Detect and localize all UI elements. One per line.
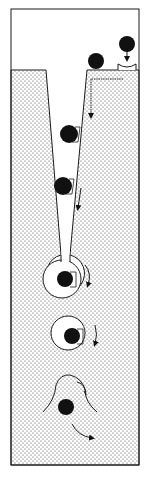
particle-cavity-2: [64, 328, 80, 344]
particle-released: [58, 399, 74, 415]
particle-cavity-1: [57, 271, 73, 287]
diagram-canvas: [0, 0, 149, 483]
particle-surface-1: [88, 53, 104, 69]
particle-channel-2: [54, 177, 72, 195]
particle-dropping: [119, 36, 135, 52]
particle-channel-1: [60, 125, 78, 143]
